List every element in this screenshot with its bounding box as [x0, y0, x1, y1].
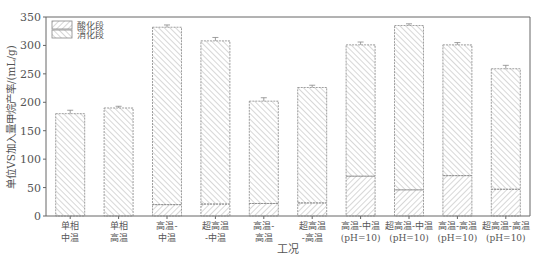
bar-group	[491, 65, 520, 216]
x-tick-label: 高温	[110, 232, 128, 243]
bar-digestion	[395, 26, 424, 190]
bar-digestion	[346, 45, 375, 176]
bar-digestion	[249, 101, 278, 203]
bar-acidification	[298, 203, 327, 216]
bar-group	[443, 43, 472, 216]
x-tick-label: 高温-高温	[438, 220, 477, 231]
bar-group	[346, 42, 375, 216]
y-tick-label: 300	[20, 39, 41, 52]
legend: 酸化段消化段	[52, 20, 104, 40]
bar-group	[56, 110, 85, 216]
x-tick-label: -中温	[205, 232, 226, 243]
bars	[56, 24, 521, 216]
bar-acidification	[491, 189, 520, 216]
bar-acidification	[443, 176, 472, 216]
bar-acidification	[201, 204, 230, 216]
bar-chart: 050100150200250300350 单相中温单相高温高温-中温超高温-中…	[0, 0, 542, 262]
x-tick-label: 中温	[158, 232, 176, 243]
bar-group	[249, 98, 278, 216]
bar-digestion	[153, 27, 182, 204]
bar-digestion	[298, 88, 327, 203]
x-tick-label: 超高温-中温	[385, 220, 433, 231]
x-tick-label: 中温	[61, 232, 79, 243]
x-tick-label: 高温-中温	[341, 220, 380, 231]
x-tick-label: 单相	[110, 220, 128, 231]
bar-acidification	[249, 203, 278, 216]
legend-swatch	[52, 30, 72, 38]
x-tick-labels: 单相中温单相高温高温-中温超高温-中温高温-高温超高温-高温高温-中温(pH=1…	[61, 220, 530, 243]
bar-acidification	[153, 205, 182, 216]
legend-label: 消化段	[77, 29, 104, 40]
legend-swatch	[52, 21, 72, 29]
x-tick-label: -高温	[302, 232, 323, 243]
y-tick-label: 200	[20, 96, 41, 109]
x-tick-label: (pH=10)	[389, 233, 429, 243]
x-tick-label: 单相	[61, 220, 79, 231]
y-tick-label: 250	[20, 68, 41, 81]
bar-digestion	[56, 114, 85, 216]
x-tick-label: 超高温	[202, 220, 229, 231]
x-tick-label: (pH=10)	[486, 233, 526, 243]
x-tick-label: (pH=10)	[438, 233, 478, 243]
bar-digestion	[104, 108, 133, 216]
bar-group	[298, 85, 327, 216]
x-tick-label: 高温	[255, 232, 273, 243]
bar-group	[395, 24, 424, 216]
x-tick-label: 高温-	[253, 220, 274, 231]
bar-digestion	[491, 69, 520, 190]
x-tick-label: 超高温	[299, 220, 326, 231]
y-tick-label: 100	[20, 153, 41, 166]
y-axis-title: 单位VS加入量甲烷产率/(mL/g)	[5, 45, 17, 189]
bar-group	[201, 37, 230, 216]
x-tick-label: 超高温-高温	[482, 220, 530, 231]
bar-group	[153, 25, 182, 216]
bar-acidification	[346, 176, 375, 216]
x-tick-label: (pH=10)	[341, 233, 381, 243]
y-tick-label: 350	[20, 11, 41, 24]
y-tick-label: 50	[27, 182, 41, 195]
y-tick-label: 150	[20, 125, 41, 138]
x-axis-title: 工况	[277, 243, 299, 256]
y-tick-label: 0	[34, 210, 41, 223]
bar-digestion	[201, 41, 230, 204]
bar-acidification	[395, 190, 424, 216]
x-tick-label: 高温-	[156, 220, 177, 231]
bar-digestion	[443, 45, 472, 176]
bar-group	[104, 106, 133, 216]
